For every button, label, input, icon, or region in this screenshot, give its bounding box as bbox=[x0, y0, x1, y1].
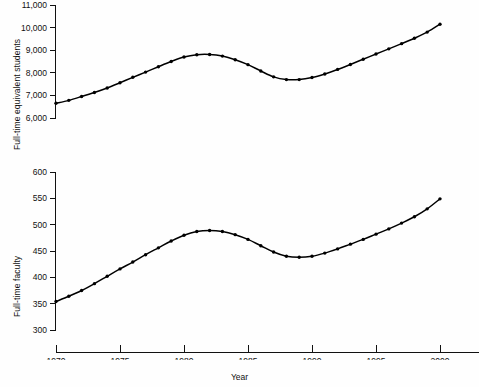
data-line bbox=[56, 199, 440, 302]
data-point bbox=[118, 267, 121, 270]
x-tick-label: 1985 bbox=[239, 356, 258, 360]
data-point bbox=[106, 86, 109, 89]
data-point bbox=[336, 247, 339, 250]
data-point bbox=[285, 255, 288, 258]
data-point bbox=[349, 242, 352, 245]
faculty-plot: 3003504004505005506001970197519801985199… bbox=[0, 160, 479, 360]
data-point bbox=[221, 230, 224, 233]
data-point bbox=[234, 58, 237, 61]
data-point bbox=[285, 78, 288, 81]
data-point bbox=[144, 70, 147, 73]
data-point bbox=[170, 239, 173, 242]
y-tick-label: 550 bbox=[33, 193, 47, 203]
data-point bbox=[144, 253, 147, 256]
data-point bbox=[234, 233, 237, 236]
data-point bbox=[93, 91, 96, 94]
data-point bbox=[157, 65, 160, 68]
data-point bbox=[259, 244, 262, 247]
data-point bbox=[426, 30, 429, 33]
data-point bbox=[400, 42, 403, 45]
y-tick-label: 300 bbox=[33, 325, 47, 335]
data-point bbox=[195, 230, 198, 233]
data-point bbox=[93, 282, 96, 285]
x-tick-label: 1970 bbox=[47, 356, 66, 360]
data-point bbox=[336, 68, 339, 71]
data-point bbox=[310, 255, 313, 258]
data-point bbox=[413, 215, 416, 218]
data-point bbox=[54, 102, 57, 105]
x-tick-label: 1990 bbox=[303, 356, 322, 360]
students-y-axis-title: Full-time equivalent students bbox=[12, 39, 22, 150]
data-point bbox=[374, 52, 377, 55]
data-point bbox=[54, 300, 57, 303]
data-point bbox=[298, 256, 301, 259]
data-point bbox=[208, 229, 211, 232]
x-tick-label: 1995 bbox=[367, 356, 386, 360]
figure-container: 6,0007,0008,0009,00010,00011,000 3003504… bbox=[0, 0, 479, 387]
students-plot: 6,0007,0008,0009,00010,00011,000 bbox=[0, 0, 479, 160]
x-tick-label: 2000 bbox=[431, 356, 450, 360]
data-point bbox=[310, 76, 313, 79]
data-point bbox=[182, 55, 185, 58]
data-point bbox=[426, 207, 429, 210]
data-point bbox=[413, 37, 416, 40]
x-axis-title: Year bbox=[0, 372, 479, 382]
data-point bbox=[80, 289, 83, 292]
y-tick-label: 11,000 bbox=[22, 0, 48, 10]
data-point bbox=[387, 227, 390, 230]
data-point bbox=[362, 238, 365, 241]
data-point bbox=[131, 260, 134, 263]
data-point bbox=[118, 81, 121, 84]
data-point bbox=[374, 232, 377, 235]
y-tick-label: 7,000 bbox=[26, 90, 48, 100]
data-point bbox=[208, 53, 211, 56]
data-point bbox=[246, 63, 249, 66]
y-tick-label: 500 bbox=[33, 220, 47, 230]
data-point bbox=[195, 53, 198, 56]
data-point bbox=[106, 275, 109, 278]
data-point bbox=[272, 250, 275, 253]
faculty-y-axis-title: Full-time faculty bbox=[12, 256, 22, 317]
y-tick-label: 600 bbox=[33, 167, 47, 177]
data-point bbox=[438, 23, 441, 26]
data-point bbox=[298, 78, 301, 81]
data-point bbox=[246, 238, 249, 241]
data-point bbox=[157, 246, 160, 249]
data-point bbox=[362, 58, 365, 61]
chart-panel-faculty: 3003504004505005506001970197519801985199… bbox=[0, 160, 479, 335]
y-tick-label: 350 bbox=[33, 299, 47, 309]
data-point bbox=[400, 221, 403, 224]
data-point bbox=[387, 47, 390, 50]
data-point bbox=[221, 54, 224, 57]
y-tick-label: 450 bbox=[33, 246, 47, 256]
x-tick-label: 1975 bbox=[111, 356, 130, 360]
data-point bbox=[67, 99, 70, 102]
y-tick-label: 10,000 bbox=[21, 23, 47, 33]
data-point bbox=[323, 72, 326, 75]
y-tick-label: 9,000 bbox=[26, 45, 48, 55]
data-point bbox=[182, 234, 185, 237]
data-point bbox=[170, 60, 173, 63]
data-point bbox=[438, 197, 441, 200]
data-point bbox=[323, 251, 326, 254]
x-tick-label: 1980 bbox=[175, 356, 194, 360]
data-point bbox=[259, 69, 262, 72]
data-point bbox=[67, 295, 70, 298]
data-point bbox=[349, 63, 352, 66]
chart-panel-students: 6,0007,0008,0009,00010,00011,000 bbox=[0, 0, 479, 160]
y-tick-label: 8,000 bbox=[26, 68, 48, 78]
data-point bbox=[272, 75, 275, 78]
y-tick-label: 400 bbox=[33, 272, 47, 282]
y-tick-label: 6,000 bbox=[26, 113, 48, 123]
data-point bbox=[80, 95, 83, 98]
data-point bbox=[131, 76, 134, 79]
